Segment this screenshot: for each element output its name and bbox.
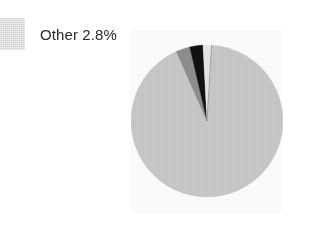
pie-svg [131,30,283,212]
pie-chart-figure: Other 2.8% [0,0,329,228]
legend-label-other: Other 2.8% [40,27,117,42]
chart-legend: Other 2.8% [0,18,117,50]
pie-plot-area [131,30,283,212]
legend-swatch-other [0,18,25,50]
pie-slice-group [131,45,283,197]
